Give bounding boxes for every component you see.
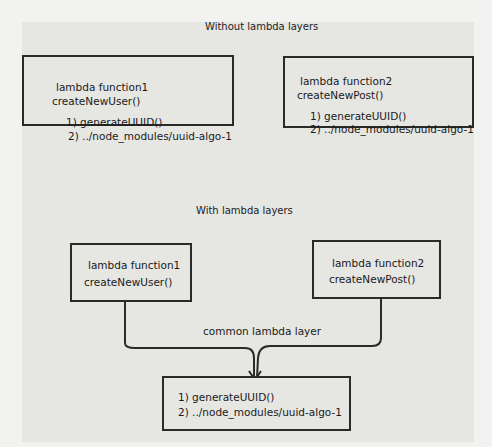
lambda-function2-box-bottom: lambda function2 createNewPost()	[312, 240, 441, 299]
lambda-function1-box-bottom: lambda function1 createNewUser()	[70, 243, 192, 302]
connector-label: common lambda layer	[203, 325, 321, 337]
common-lambda-layer-box: 1) generateUUID() 2) ../node_modules/uui…	[162, 376, 351, 431]
layer-item: 1) generateUUID()	[178, 391, 274, 403]
function-name: lambda function2	[332, 257, 424, 269]
function-handler: createNewPost()	[329, 273, 415, 285]
layer-item: 2) ../node_modules/uuid-algo-1	[178, 406, 342, 418]
function-handler: createNewUser()	[84, 276, 172, 288]
function-name: lambda function1	[88, 259, 180, 271]
